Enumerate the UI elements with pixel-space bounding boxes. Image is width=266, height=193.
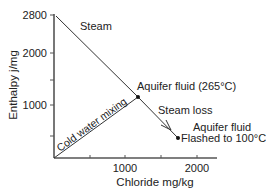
enthalpy-chloride-chart: 2800 2000 1000 1000 2000 Chloride mg/kg …: [0, 0, 266, 193]
y-tick-label-2000: 2000: [23, 47, 47, 59]
y-tick-label-2800: 2800: [23, 9, 47, 21]
y-axis-label: Enthalpy j/mg: [7, 50, 19, 120]
x-tick-label-2000: 2000: [185, 162, 209, 174]
aquifer-265-label: Aquifer fluid (265°C): [137, 80, 236, 92]
steam-loss-label: Steam loss: [158, 104, 213, 116]
x-tick-label-1000: 1000: [113, 162, 137, 174]
y-tick-label-1000: 1000: [23, 99, 47, 111]
cold-water-mixing-label: Cold water mixing: [54, 95, 129, 154]
aquifer-flashed-point: [176, 136, 180, 140]
x-axis-label: Chloride mg/kg: [116, 176, 193, 188]
steam-label: Steam: [80, 20, 112, 32]
aquifer-265-point: [136, 95, 140, 99]
aquifer-flashed-label-2: Flashed to 100°C: [181, 132, 266, 144]
